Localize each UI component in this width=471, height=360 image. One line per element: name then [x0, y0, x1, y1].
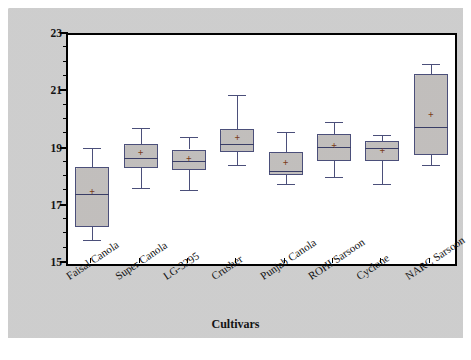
- x-tick-mark: [235, 258, 236, 263]
- x-axis-tick-marks: [66, 257, 453, 263]
- x-tick-mark: [380, 258, 381, 263]
- plot-area: [66, 33, 457, 266]
- boxplot-narc-sarsoon: [68, 35, 455, 264]
- x-tick-mark: [284, 258, 285, 263]
- x-tick-mark: [139, 258, 140, 263]
- whisker-cap-lower: [422, 165, 440, 166]
- x-axis-title: Cultivars: [8, 317, 463, 332]
- x-tick-mark: [90, 258, 91, 263]
- median-line: [414, 127, 448, 128]
- chart-panel: Harvest Index 1517192123 Faisal CanolaSu…: [8, 8, 463, 338]
- whisker-upper: [431, 64, 432, 74]
- x-tick-mark: [429, 258, 430, 263]
- x-tick-mark: [187, 258, 188, 263]
- figure-root: Harvest Index 1517192123 Faisal CanolaSu…: [0, 0, 471, 360]
- x-tick-mark: [332, 258, 333, 263]
- mean-marker: [427, 110, 434, 117]
- whisker-cap-upper: [422, 64, 440, 65]
- boxplot-series: [68, 35, 455, 264]
- whisker-lower: [431, 155, 432, 165]
